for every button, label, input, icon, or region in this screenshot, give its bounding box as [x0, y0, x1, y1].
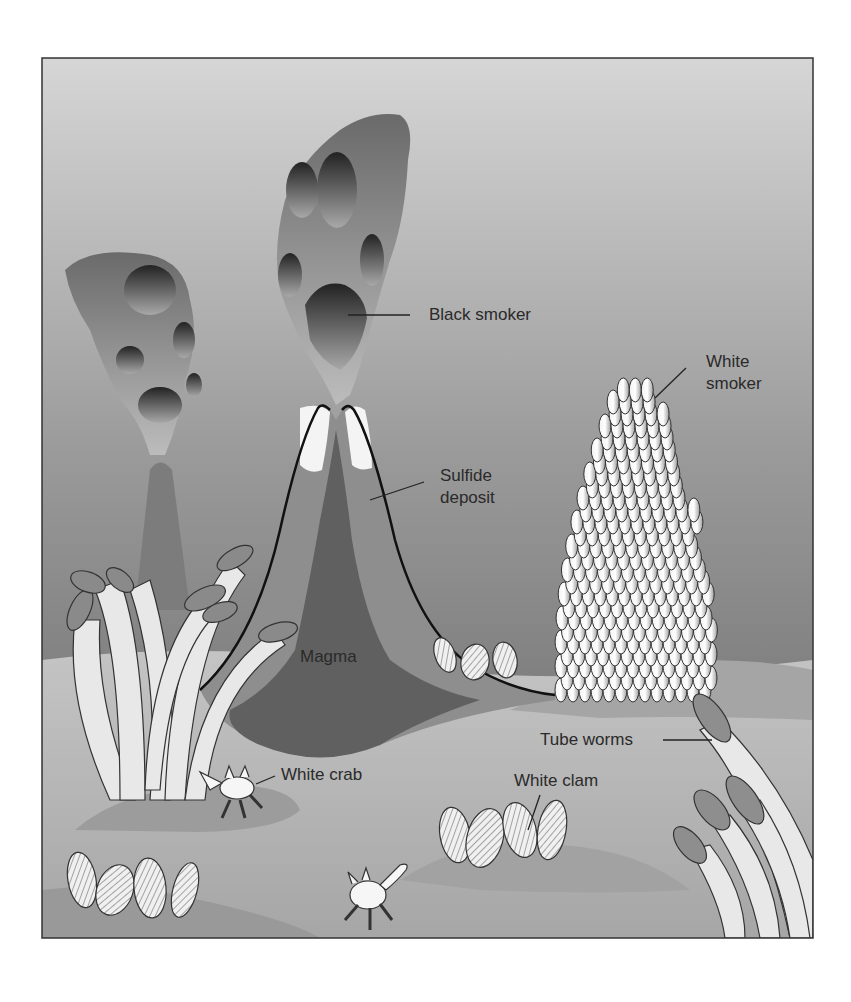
label-black-smoker: Black smoker — [429, 305, 531, 324]
label-white-smoker-2: smoker — [706, 374, 762, 393]
hydrothermal-vent-diagram: Black smoker White smoker Sulfide deposi… — [0, 0, 851, 1002]
label-white-smoker-1: White — [706, 352, 749, 371]
label-magma: Magma — [300, 647, 357, 666]
label-white-crab: White crab — [281, 765, 362, 784]
label-tube-worms: Tube worms — [540, 730, 633, 749]
label-sulfide-2: deposit — [440, 488, 495, 507]
label-white-clam: White clam — [514, 771, 598, 790]
label-sulfide-1: Sulfide — [440, 466, 492, 485]
